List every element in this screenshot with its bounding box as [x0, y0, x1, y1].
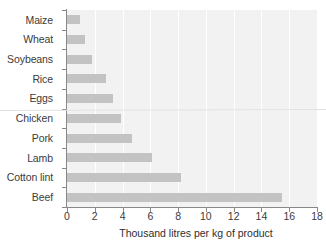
- x-tick-label: 6: [147, 211, 153, 222]
- y-axis-tick: [62, 109, 66, 110]
- category-label: Soybeans: [0, 49, 58, 69]
- x-tick-label: 18: [311, 211, 323, 222]
- category-label: Rice: [0, 69, 58, 89]
- bar-row: [67, 148, 317, 168]
- bar-chicken: [67, 114, 121, 123]
- bar-row: [67, 49, 317, 69]
- y-axis-tick: [62, 69, 66, 70]
- bar-row: [67, 69, 317, 89]
- x-tick-label: 0: [64, 211, 70, 222]
- category-label: Eggs: [0, 89, 58, 109]
- x-tick-label: 14: [256, 211, 268, 222]
- water-footprint-bar-chart: MaizeWheatSoybeansRiceEggsChickenPorkLam…: [0, 0, 326, 250]
- y-axis-tick: [62, 187, 66, 188]
- y-axis-tick: [62, 168, 66, 169]
- x-axis-title: Thousand litres per kg of product: [0, 228, 326, 239]
- y-axis-tick: [62, 30, 66, 31]
- x-axis-line: [67, 207, 318, 208]
- bar-lamb: [67, 153, 152, 162]
- bar-row: [67, 109, 317, 129]
- x-tick-label: 2: [92, 211, 98, 222]
- bar-maize: [67, 15, 80, 24]
- bar-row: [67, 30, 317, 50]
- category-label: Beef: [0, 187, 58, 207]
- bar-row: [67, 10, 317, 30]
- bar-row: [67, 89, 317, 109]
- y-axis-tick: [62, 207, 66, 208]
- category-label: Maize: [0, 10, 58, 30]
- bar-soybeans: [67, 55, 92, 64]
- category-label: Lamb: [0, 148, 58, 168]
- category-label: Pork: [0, 128, 58, 148]
- bar-series: [67, 10, 317, 207]
- category-axis-labels: MaizeWheatSoybeansRiceEggsChickenPorkLam…: [0, 10, 58, 207]
- y-axis-tick: [62, 128, 66, 129]
- x-tick-label: 10: [200, 211, 212, 222]
- bar-wheat: [67, 35, 85, 44]
- x-tick-label: 8: [175, 211, 181, 222]
- bar-eggs: [67, 94, 113, 103]
- bar-beef: [67, 193, 282, 202]
- bar-pork: [67, 134, 132, 143]
- y-axis-tick: [62, 89, 66, 90]
- bar-rice: [67, 74, 106, 83]
- bar-row: [67, 187, 317, 207]
- category-label: Cotton lint: [0, 168, 58, 188]
- bar-row: [67, 128, 317, 148]
- bar-row: [67, 168, 317, 188]
- x-tick-label: 4: [120, 211, 126, 222]
- x-tick-label: 12: [228, 211, 240, 222]
- y-axis-tick: [62, 10, 66, 11]
- y-axis-tick: [62, 49, 66, 50]
- x-tick-label: 16: [283, 211, 295, 222]
- plot-area: [67, 10, 317, 207]
- category-label: Wheat: [0, 30, 58, 50]
- bar-cotton-lint: [67, 173, 181, 182]
- y-axis-tick: [62, 148, 66, 149]
- category-label: Chicken: [0, 109, 58, 129]
